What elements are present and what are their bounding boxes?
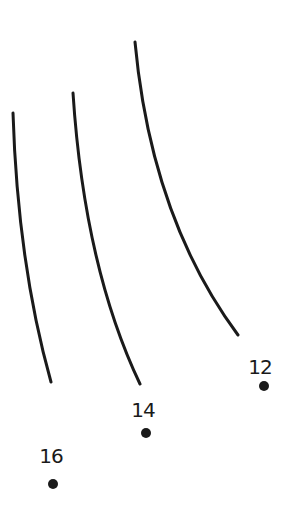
dot-label-16: 16: [39, 444, 62, 468]
curve-line: [13, 113, 51, 382]
curve-line: [73, 93, 140, 384]
dot-14: [141, 428, 151, 438]
dot-16: [48, 479, 58, 489]
dot-label-12: 12: [248, 355, 271, 379]
dot-label-14: 14: [131, 398, 154, 422]
curve-line: [135, 42, 238, 335]
dot-12: [259, 381, 269, 391]
